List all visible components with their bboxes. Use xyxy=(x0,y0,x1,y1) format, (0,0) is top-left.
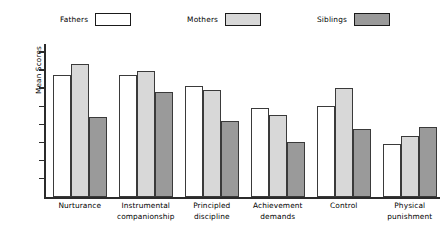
x-axis-line xyxy=(44,197,440,199)
bar-group xyxy=(53,44,107,197)
bar-fathers-physical-punishment xyxy=(383,144,401,198)
legend-swatch-mothers xyxy=(225,13,261,26)
x-axis-label: Principleddiscipline xyxy=(179,201,245,222)
bar-mothers-nurturance xyxy=(71,64,89,198)
legend-swatch-siblings xyxy=(354,13,390,26)
legend-label-mothers: Mothers xyxy=(187,15,218,24)
bar-siblings-principled-discipline xyxy=(221,121,239,198)
legend-swatch-fathers xyxy=(95,13,131,26)
bar-siblings-instrumental-companionship xyxy=(155,92,173,197)
bar-mothers-instrumental-companionship xyxy=(137,71,155,197)
bar-group xyxy=(317,44,371,197)
bar-mothers-principled-discipline xyxy=(203,90,221,197)
bar-fathers-principled-discipline xyxy=(185,86,203,197)
legend-label-fathers: Fathers xyxy=(60,15,88,24)
bar-fathers-control xyxy=(317,106,335,198)
chart-legend: Fathers Mothers Siblings xyxy=(60,8,390,30)
bar-fathers-nurturance xyxy=(53,75,71,197)
bar-mothers-achievement-demands xyxy=(269,115,287,197)
bar-fathers-achievement-demands xyxy=(251,108,269,198)
x-axis-labels: NurturanceInstrumentalcompanionshipPrinc… xyxy=(44,201,440,235)
bar-group xyxy=(119,44,173,197)
x-axis-label: Instrumentalcompanionship xyxy=(113,201,179,222)
bar-chart-figure: Fathers Mothers Siblings Mean Scores Nur… xyxy=(0,0,448,236)
bar-siblings-control xyxy=(353,129,371,198)
bar-siblings-nurturance xyxy=(89,117,107,197)
x-axis-label: Achievementdemands xyxy=(245,201,311,222)
legend-item-fathers: Fathers xyxy=(60,13,131,26)
legend-label-siblings: Siblings xyxy=(317,15,347,24)
plot-area: Mean Scores xyxy=(44,44,440,199)
bar-mothers-physical-punishment xyxy=(401,136,419,197)
legend-item-siblings: Siblings xyxy=(317,13,390,26)
bars-layer xyxy=(44,44,440,197)
bar-group xyxy=(185,44,239,197)
bar-fathers-instrumental-companionship xyxy=(119,75,137,197)
bar-siblings-achievement-demands xyxy=(287,142,305,197)
bar-siblings-physical-punishment xyxy=(419,127,437,198)
bar-group xyxy=(251,44,305,197)
bar-group xyxy=(383,44,437,197)
x-axis-label: Control xyxy=(311,201,377,212)
x-axis-label: Physicalpunishment xyxy=(377,201,443,222)
legend-item-mothers: Mothers xyxy=(187,13,261,26)
bar-mothers-control xyxy=(335,88,353,197)
x-axis-label: Nurturance xyxy=(47,201,113,212)
